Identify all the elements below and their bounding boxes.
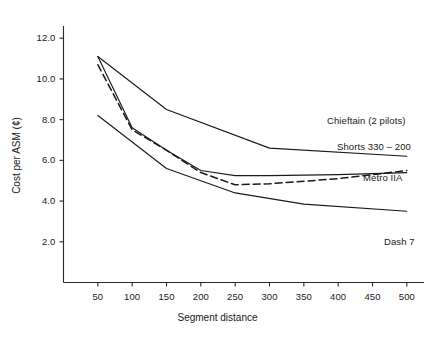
chart-plot-area [0,0,435,338]
series-label-metro: Metro IIA [363,172,402,183]
chart-figure: 2.04.06.08.010.012.0 5010015020025030035… [0,0,435,338]
y-tick-label: 6.0 [16,154,56,165]
y-axis-ticks [60,38,64,242]
x-axis-ticks [98,283,407,287]
y-tick-label: 2.0 [16,236,56,247]
y-tick-label: 4.0 [16,195,56,206]
series-line-dash-7 [98,116,407,212]
series-label-dash7: Dash 7 [384,236,415,247]
series-label-chieftain: Chieftain (2 pilots) [327,115,406,126]
x-tick-label: 500 [387,291,427,302]
chart-axes [60,26,425,287]
series-label-shorts: Shorts 330 – 200 [337,141,411,152]
x-axis-title: Segment distance [0,312,435,323]
chart-series-group [98,57,407,212]
y-axis-title: Cost per ASM (¢) [11,96,22,216]
y-tick-label: 10.0 [16,73,56,84]
y-tick-label: 8.0 [16,114,56,125]
y-tick-label: 12.0 [16,32,56,43]
